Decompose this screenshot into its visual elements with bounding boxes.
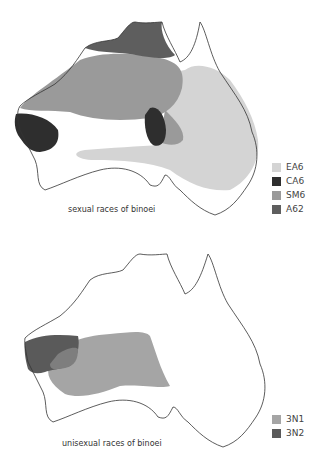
legend-item-a62: A62: [272, 202, 305, 216]
map-caption: sexual races of binoei: [68, 205, 155, 214]
legend-item-ea6: EA6: [272, 160, 305, 174]
sexual-races-map: sexual races of binoei EA6 CA6 SM6 A62: [0, 0, 321, 234]
legend: 3N1 3N2: [272, 412, 304, 440]
legend: EA6 CA6 SM6 A62: [272, 160, 305, 216]
legend-item-ca6: CA6: [272, 174, 305, 188]
unisexual-races-map: unisexual races of binoei 3N1 3N2: [0, 234, 321, 468]
legend-item-3n1: 3N1: [272, 412, 304, 426]
map-caption: unisexual races of binoei: [62, 439, 162, 448]
legend-item-sm6: SM6: [272, 188, 305, 202]
legend-item-3n2: 3N2: [272, 426, 304, 440]
